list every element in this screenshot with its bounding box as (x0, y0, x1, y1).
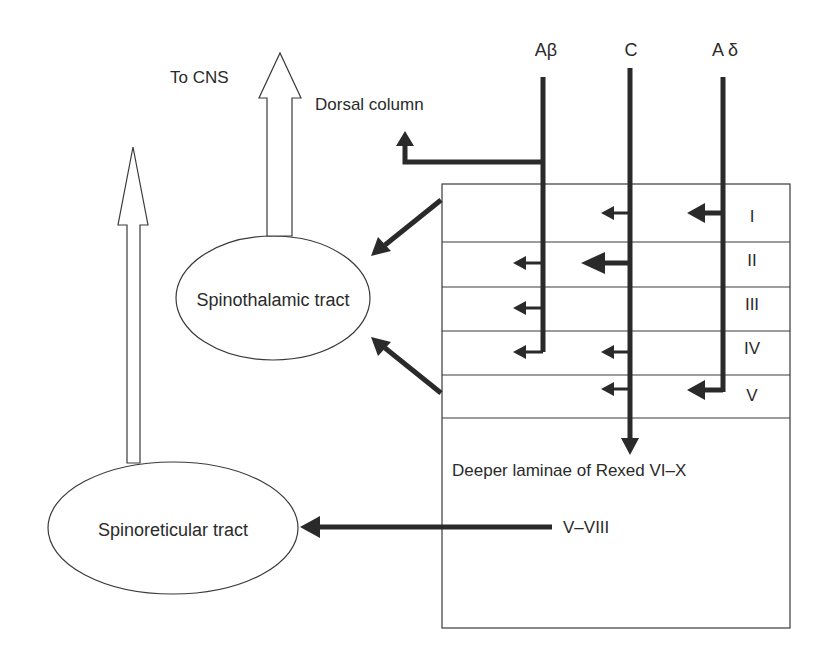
spinoreticular-label: Spinoreticular tract (98, 520, 248, 540)
a-delta-fiber (687, 77, 723, 400)
fiber-label-a-beta: Aβ (535, 40, 557, 60)
spinothalamic-label: Spinothalamic tract (196, 290, 349, 310)
spinothalamic-projection-arrows (371, 200, 441, 393)
spinoreticular-ascending-arrow (118, 147, 148, 463)
v-viii-projection-arrow: V–VIII (300, 516, 609, 538)
up-arrow-icon (118, 147, 148, 463)
v-viii-label: V–VIII (563, 518, 609, 537)
spinoreticular-tract: Spinoreticular tract (48, 462, 298, 594)
spinothalamic-tract: Spinothalamic tract (176, 236, 370, 360)
lamina-label-iii: III (745, 295, 759, 314)
pain-pathway-diagram: I II III IV V Aβ C A δ (0, 0, 828, 658)
dorsal-horn-box (442, 184, 790, 628)
lamina-label-iv: IV (744, 339, 761, 358)
lamina-label-ii: II (747, 251, 756, 270)
lamina-label-v: V (746, 386, 758, 405)
dorsal-column-arrowhead-icon (396, 131, 414, 146)
up-arrow-icon (259, 53, 301, 236)
fiber-label-a-delta: A δ (712, 40, 738, 60)
fiber-label-c: C (625, 40, 638, 60)
to-cns-label: To CNS (170, 68, 229, 87)
deeper-laminae-label: Deeper laminae of Rexed VI–X (452, 461, 686, 480)
lamina-label-i: I (750, 207, 755, 226)
c-fiber (581, 68, 639, 455)
deeper-laminae-arrowhead-icon (621, 438, 639, 455)
dorsal-column-label: Dorsal column (315, 95, 424, 114)
to-cns-arrow: To CNS (170, 53, 301, 236)
